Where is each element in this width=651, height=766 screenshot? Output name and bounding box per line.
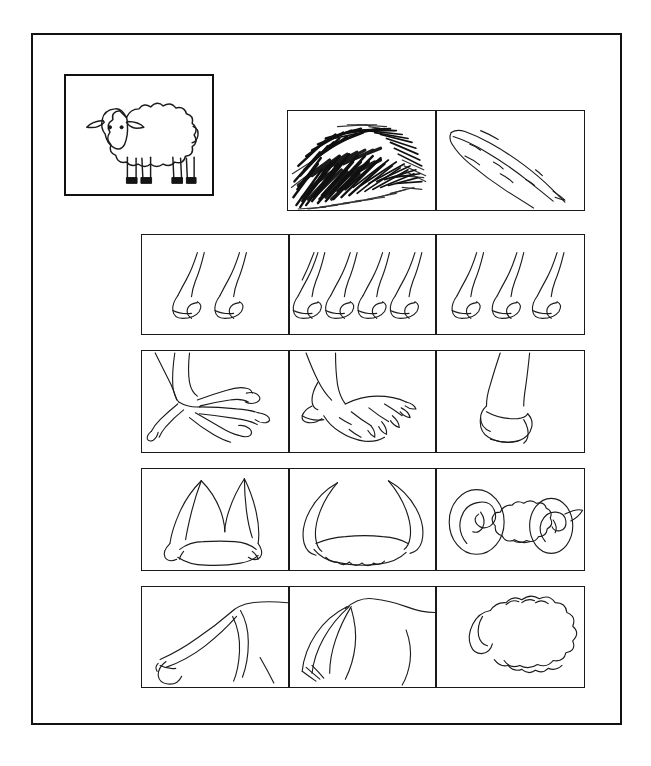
sheep-drawing-icon: [66, 76, 212, 194]
horns-panel-spiral-ram[interactable]: [436, 468, 585, 571]
tails-panel-thin[interactable]: [141, 586, 289, 688]
feet-panel-hoof[interactable]: [436, 350, 585, 453]
feather-icon: [437, 111, 584, 210]
tails-panel-woolly[interactable]: [436, 586, 585, 688]
worksheet-sheet: sheep Animal Features Identification She…: [0, 0, 651, 766]
horns-panel-upright[interactable]: [141, 468, 289, 571]
reference-animal-panel[interactable]: [64, 74, 214, 196]
four-legs-icon: [290, 235, 435, 334]
legs-panel-two[interactable]: [141, 234, 289, 335]
hoof-icon: [437, 351, 584, 452]
feet-panel-bird-claw[interactable]: [141, 350, 289, 453]
fur-texture-icon: [288, 111, 435, 210]
horns-panel-crescent[interactable]: [289, 468, 436, 571]
legs-panel-three[interactable]: [436, 234, 585, 335]
clawed-paw-icon: [290, 351, 435, 452]
tufted-tail-icon: [290, 587, 435, 687]
three-legs-icon: [437, 235, 584, 334]
covering-panel-fur[interactable]: [287, 110, 436, 211]
two-legs-icon: [142, 235, 288, 334]
bird-foot-icon: [142, 351, 288, 452]
crescent-horns-icon: [290, 469, 435, 570]
woolly-tail-icon: [437, 587, 584, 687]
legs-panel-four[interactable]: [289, 234, 436, 335]
feet-panel-clawed-paw[interactable]: [289, 350, 436, 453]
tails-panel-tufted[interactable]: [289, 586, 436, 688]
thin-tail-icon: [142, 587, 288, 687]
upright-horns-icon: [142, 469, 288, 570]
spiral-ram-horns-icon: [437, 469, 584, 570]
covering-panel-feather[interactable]: [436, 110, 585, 211]
